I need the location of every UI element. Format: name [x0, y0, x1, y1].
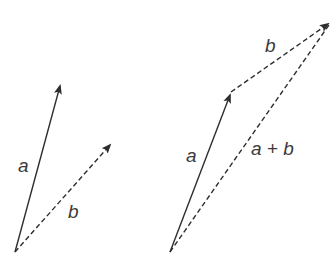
label-b-left: b — [68, 201, 79, 222]
vector-b-right — [231, 24, 328, 92]
right-panel: a b a + b — [170, 24, 329, 252]
label-a-plus-b: a + b — [251, 138, 294, 159]
vector-a-plus-b — [170, 25, 329, 252]
left-panel: a b — [15, 86, 110, 252]
label-a-right: a — [186, 145, 197, 166]
label-a-left: a — [18, 155, 29, 176]
vector-addition-diagram: a b a b a + b — [0, 0, 336, 276]
label-b-right: b — [265, 35, 276, 56]
vector-a-right — [170, 95, 230, 252]
